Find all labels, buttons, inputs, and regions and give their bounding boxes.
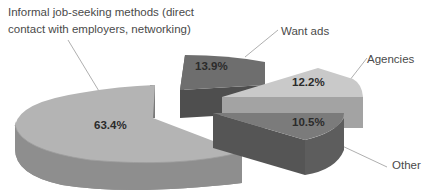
leader-line-other — [338, 144, 387, 167]
label-informal-line2: contact with employers, networking) — [8, 21, 194, 38]
label-informal: Informal job-seeking methods (direct con… — [8, 4, 194, 38]
label-agencies: Agencies — [367, 51, 414, 68]
leader-line-want-ads — [245, 30, 278, 57]
label-want-ads: Want ads — [281, 23, 329, 40]
percent-informal: 63.4% — [94, 119, 127, 131]
percent-agencies: 12.2% — [292, 76, 325, 88]
percent-want-ads: 13.9% — [195, 60, 228, 72]
label-informal-line1: Informal job-seeking methods (direct — [8, 4, 194, 21]
label-other: Other — [392, 157, 421, 174]
percent-other: 10.5% — [292, 116, 325, 128]
